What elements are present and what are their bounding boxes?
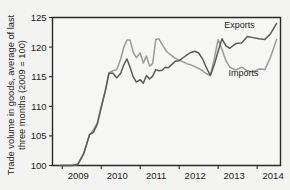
series-label-imports: Imports [228, 68, 259, 78]
x-tick-label: 2010 [107, 170, 128, 181]
x-tick-label: 2014 [263, 170, 284, 181]
y-tick-label: 115 [31, 71, 46, 82]
y-tick-label: 100 [31, 160, 47, 171]
x-tick-label: 2011 [146, 170, 166, 181]
y-tick-label: 110 [31, 101, 46, 112]
series-label-exports: Exports [224, 20, 255, 30]
y-tick-label: 125 [31, 12, 47, 23]
y-tick-label: 105 [31, 130, 47, 141]
x-tick-label: 2013 [224, 170, 245, 181]
x-tick-label: 2012 [185, 170, 206, 181]
chart-figure: Trade volume in goods, average of last t… [0, 0, 290, 190]
y-axis-label-line1: Trade volume in goods, average of last [6, 14, 16, 175]
y-axis-label-line2: three months (2009 = 100) [17, 40, 27, 150]
trade-volume-line-chart: Trade volume in goods, average of last t… [0, 0, 290, 190]
x-tick-label: 2009 [68, 170, 89, 181]
y-tick-label: 120 [31, 42, 47, 53]
